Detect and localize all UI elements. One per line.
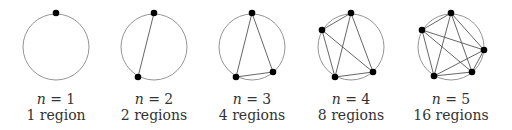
circle (23, 14, 89, 80)
point-dot (332, 74, 339, 81)
point-dot (53, 10, 60, 17)
point-dot (233, 74, 240, 81)
chord (252, 13, 273, 72)
panel-n1 (23, 10, 89, 80)
point-dot (469, 69, 476, 76)
point-dot (431, 73, 438, 80)
chord (434, 13, 451, 76)
point-dot (249, 10, 256, 17)
regions-label: 8 regions (301, 107, 401, 123)
chord (335, 72, 373, 77)
panel-n5 (418, 10, 487, 80)
regions-label: 4 regions (202, 107, 302, 123)
point-dot (448, 10, 455, 17)
chord (236, 13, 252, 77)
regions-label: 2 regions (104, 107, 204, 123)
chord (138, 13, 154, 77)
chord (322, 30, 335, 77)
point-dot (270, 69, 277, 76)
chord (422, 30, 434, 76)
n-label: n = 2 (104, 91, 204, 107)
point-dot (419, 27, 426, 34)
panel-caption: n = 11 region (6, 91, 106, 123)
n-label: n = 4 (301, 91, 401, 107)
panel-caption: n = 34 regions (202, 91, 302, 123)
chord (335, 13, 351, 77)
point-dot (348, 10, 355, 17)
regions-label: 1 region (6, 107, 106, 123)
panel-caption: n = 516 regions (401, 91, 501, 123)
panel-caption: n = 22 regions (104, 91, 204, 123)
regions-label: 16 regions (401, 107, 501, 123)
n-label: n = 5 (401, 91, 501, 107)
n-label: n = 1 (6, 91, 106, 107)
n-label: n = 3 (202, 91, 302, 107)
point-dot (135, 74, 142, 81)
point-dot (319, 27, 326, 34)
point-dot (481, 47, 488, 54)
point-dot (151, 10, 158, 17)
point-dot (370, 69, 377, 76)
panel-caption: n = 48 regions (301, 91, 401, 123)
chord (322, 13, 351, 30)
panel-n2 (121, 10, 187, 81)
panel-n4 (318, 10, 384, 81)
panel-n3 (219, 10, 285, 81)
circle (121, 14, 187, 80)
